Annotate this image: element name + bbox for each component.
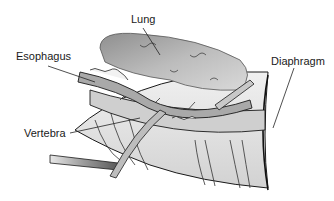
vertebra-label: Vertebra <box>24 128 66 139</box>
anatomy-illustration <box>0 0 334 201</box>
lung-label: Lung <box>131 14 155 25</box>
lung <box>100 33 248 90</box>
diaphragm-label: Diaphragm <box>271 56 325 67</box>
diaphragm-leader-line <box>273 68 294 128</box>
anatomy-diagram: Lung Esophagus Diaphragm Vertebra <box>0 0 334 201</box>
esophagus-label: Esophagus <box>16 51 71 62</box>
